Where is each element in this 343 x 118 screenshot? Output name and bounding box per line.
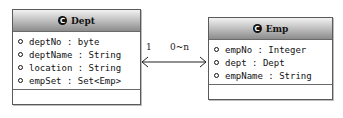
method-list (209, 85, 332, 99)
attribute[interactable]: empSet : Set<Emp> (13, 74, 140, 87)
attribute[interactable]: empNo : Integer (209, 43, 332, 56)
field-icon (214, 47, 219, 52)
source-multiplicity: 1 (146, 42, 152, 52)
attribute[interactable]: deptNo : byte (13, 35, 140, 48)
class-icon: C (253, 24, 262, 33)
attribute[interactable]: empName : String (209, 69, 332, 82)
class-name: Emp (266, 24, 289, 34)
field-icon (18, 65, 23, 70)
class-name: Dept (71, 16, 95, 26)
attribute-list: deptNo : byte deptName : String location… (13, 32, 140, 90)
field-icon (18, 39, 23, 44)
method-list (13, 90, 140, 104)
attribute[interactable]: deptName : String (13, 48, 140, 61)
field-icon (214, 60, 219, 65)
attribute-list: empNo : Integer dept : Dept empName : St… (209, 40, 332, 85)
class-header: C Emp (209, 18, 332, 40)
field-icon (18, 78, 23, 83)
class-emp[interactable]: C Emp empNo : Integer dept : Dept empNam… (208, 17, 333, 100)
field-icon (18, 52, 23, 57)
class-dept[interactable]: C Dept deptNo : byte deptName : String l… (12, 9, 141, 105)
attribute[interactable]: dept : Dept (209, 56, 332, 69)
field-icon (214, 73, 219, 78)
class-icon: C (58, 16, 67, 25)
class-header: C Dept (13, 10, 140, 32)
attribute[interactable]: location : String (13, 61, 140, 74)
target-multiplicity: 0~n (170, 42, 189, 52)
